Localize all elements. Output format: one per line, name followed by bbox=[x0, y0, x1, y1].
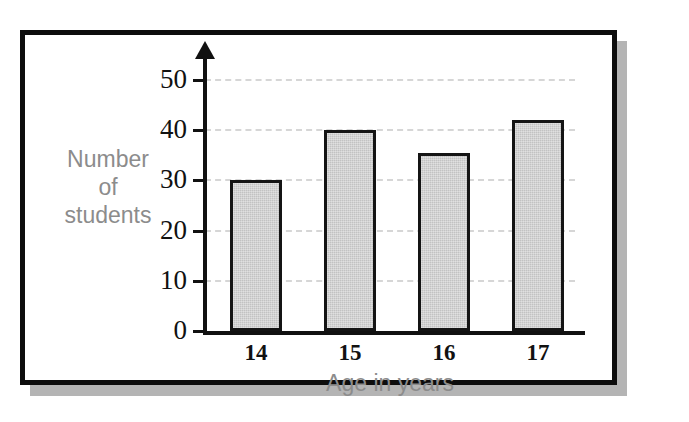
y-axis-tick bbox=[193, 280, 207, 283]
y-axis-tick-label: 0 bbox=[145, 317, 187, 344]
y-axis-tick bbox=[193, 179, 207, 182]
y-axis-title-line: students bbox=[33, 201, 183, 229]
x-axis-line bbox=[203, 331, 585, 335]
y-axis-tick bbox=[193, 230, 207, 233]
y-axis-tick bbox=[193, 129, 207, 132]
bar-15 bbox=[324, 130, 376, 331]
chart-page: 01020304050 14151617 Numberofstudents Ag… bbox=[0, 0, 689, 422]
y-axis-title-line: Number bbox=[33, 145, 183, 173]
bar-17 bbox=[512, 120, 564, 331]
x-axis-category-label: 15 bbox=[305, 341, 395, 364]
y-axis-tick-label: 10 bbox=[145, 267, 187, 294]
x-axis-category-label: 16 bbox=[399, 341, 489, 364]
x-axis-category-label: 17 bbox=[493, 341, 583, 364]
y-axis-tick bbox=[193, 79, 207, 82]
bar-16 bbox=[418, 153, 470, 331]
gridline bbox=[205, 79, 575, 81]
y-axis-title: Numberofstudents bbox=[33, 145, 183, 229]
y-axis-title-line: of bbox=[33, 173, 183, 201]
figure-frame: 01020304050 14151617 Numberofstudents Ag… bbox=[20, 30, 617, 385]
bar-14 bbox=[230, 180, 282, 331]
bar-chart-plot-area: 01020304050 14151617 Numberofstudents Ag… bbox=[25, 35, 612, 380]
y-axis-tick-label: 50 bbox=[145, 66, 187, 93]
y-axis-line bbox=[203, 55, 207, 333]
x-axis-category-label: 14 bbox=[211, 341, 301, 364]
y-axis-tick-label: 40 bbox=[145, 116, 187, 143]
x-axis-title: Age in years bbox=[205, 372, 575, 395]
